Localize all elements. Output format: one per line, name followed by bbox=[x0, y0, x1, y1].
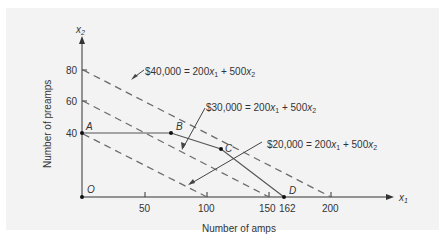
y-axis-title: Number of preamps bbox=[42, 80, 53, 168]
annotation-40000: $40,000 = 200x1 + 500x2 bbox=[145, 66, 255, 78]
label-c: C bbox=[225, 143, 233, 154]
y-tick-label-60: 60 bbox=[66, 96, 78, 107]
chart: x2 x1 80 60 40 50 100 150 162 200 Number… bbox=[0, 0, 445, 244]
label-d: D bbox=[289, 185, 296, 196]
point-a bbox=[80, 131, 84, 135]
point-b bbox=[169, 131, 173, 135]
x-tick-label-100: 100 bbox=[198, 203, 215, 214]
point-c bbox=[219, 147, 223, 151]
label-a: A bbox=[85, 121, 93, 132]
annotation-20000: $20,000 = 200x1 + 500x2 bbox=[267, 139, 377, 151]
x-axis-title: Number of amps bbox=[202, 223, 276, 234]
y-tick-label-80: 80 bbox=[66, 65, 78, 76]
point-o bbox=[80, 195, 84, 199]
point-d bbox=[282, 195, 286, 199]
x-tick-label-162: 162 bbox=[279, 203, 296, 214]
x-tick-label-50: 50 bbox=[139, 203, 151, 214]
y-tick-label-40: 40 bbox=[66, 128, 78, 139]
x-tick-label-200: 200 bbox=[322, 203, 339, 214]
label-b: B bbox=[176, 121, 183, 132]
x-tick-label-150: 150 bbox=[259, 203, 276, 214]
label-o: O bbox=[87, 184, 95, 195]
annotation-30000: $30,000 = 200x1 + 500x2 bbox=[206, 102, 316, 114]
